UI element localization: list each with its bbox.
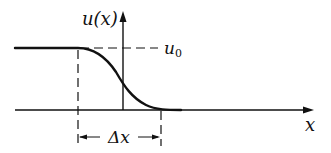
u0-label-main: u — [164, 38, 175, 58]
delta-x-label: Δx — [107, 127, 130, 147]
u0-label-subscript: 0 — [175, 47, 182, 60]
y-axis-label: u(x) — [82, 8, 118, 29]
right-arrowhead-icon — [152, 135, 160, 140]
x-axis-arrow-icon — [303, 107, 314, 114]
step-profile-diagram: Δx u(x) x u0 — [0, 0, 331, 153]
delta-x-dimension: Δx — [79, 127, 160, 147]
y-axis-arrow-icon — [120, 11, 127, 22]
left-arrowhead-icon — [79, 135, 87, 140]
u0-label: u0 — [164, 38, 182, 60]
x-axis-label: x — [305, 114, 315, 135]
profile-curve — [15, 48, 181, 110]
y-axis — [120, 11, 127, 110]
